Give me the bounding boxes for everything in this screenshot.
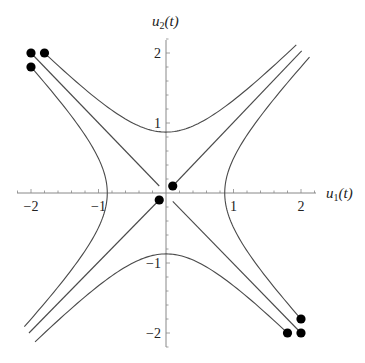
phase-portrait-plot: −2−112−2−112 u1(t) u2(t) bbox=[0, 0, 365, 363]
initial-point-marker bbox=[155, 195, 164, 204]
initial-point-marker bbox=[296, 328, 305, 337]
trajectory-left-hyperbola bbox=[24, 67, 107, 327]
initial-point-marker bbox=[168, 181, 177, 190]
y-tick-label: 1 bbox=[154, 116, 161, 131]
y-tick-label: 2 bbox=[154, 46, 161, 61]
y-tick-label: −2 bbox=[146, 326, 161, 341]
x-axis-label: u1(t) bbox=[326, 185, 353, 203]
x-tick-label: −2 bbox=[24, 199, 39, 214]
x-tick-label: −1 bbox=[91, 199, 106, 214]
y-tick-label: −1 bbox=[146, 256, 161, 271]
initial-point-marker bbox=[296, 314, 305, 323]
trajectory-unstable-line-lower-left bbox=[29, 200, 159, 333]
x-tick-label: 2 bbox=[298, 199, 305, 214]
x-tick-label: 1 bbox=[230, 199, 237, 214]
initial-point-marker bbox=[40, 48, 49, 57]
y-axis-label: u2(t) bbox=[152, 13, 179, 31]
trajectory-stable-line-lower-right bbox=[173, 201, 301, 333]
initial-point-marker bbox=[26, 48, 35, 57]
trajectory-unstable-line-upper-right bbox=[173, 51, 302, 186]
trajectory-stable-line-upper-left bbox=[31, 53, 159, 186]
initial-point-marker bbox=[26, 62, 35, 71]
initial-point-marker bbox=[283, 328, 292, 337]
